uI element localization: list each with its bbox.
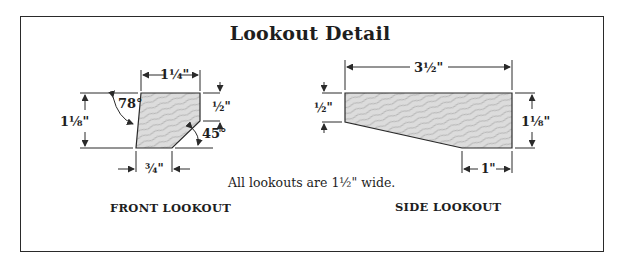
front-angle-left: 78° <box>118 96 143 111</box>
front-dim-bottom: ¾" <box>145 162 164 176</box>
side-lookout-caption: SIDE LOOKOUT <box>395 200 501 214</box>
side-dim-left: ½" <box>314 101 333 115</box>
front-dim-left: 1⅛" <box>60 114 89 129</box>
side-lookout-drawing <box>322 60 535 173</box>
front-lookout-caption: FRONT LOOKOUT <box>110 201 231 215</box>
side-dim-right: 1⅛" <box>521 114 550 129</box>
front-angle-right: 45° <box>202 126 227 141</box>
front-dim-right: ½" <box>212 100 231 114</box>
front-lookout-drawing <box>80 70 220 172</box>
front-lookout-shape <box>136 93 200 148</box>
side-dim-bottom: 1" <box>481 162 496 176</box>
front-dim-top: 1¼" <box>160 67 189 82</box>
diagram-title: Lookout Detail <box>0 22 620 44</box>
side-lookout-shape <box>345 93 512 148</box>
width-note: All lookouts are 1½" wide. <box>228 175 395 190</box>
side-dim-top: 3½" <box>414 60 443 75</box>
